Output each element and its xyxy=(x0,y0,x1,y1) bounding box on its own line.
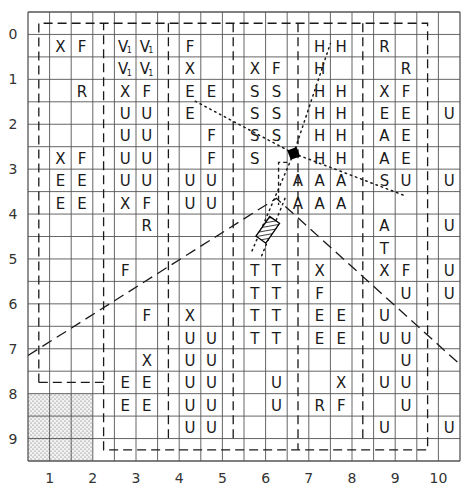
row-labels: 0123456789 xyxy=(9,26,18,446)
cell-letter: S xyxy=(272,105,282,123)
cell-letter: E xyxy=(401,105,410,123)
row-label: 1 xyxy=(9,71,18,87)
cell-letter: E xyxy=(120,397,129,415)
cell-letter: E xyxy=(380,105,389,123)
cell-letter: U xyxy=(379,330,390,348)
cell-letter: E xyxy=(142,397,151,415)
cell-letter: U xyxy=(271,374,282,392)
col-label: 5 xyxy=(218,470,227,486)
cell-letter: S xyxy=(272,127,282,145)
cell-letter: A xyxy=(314,172,325,190)
cell-letter: H xyxy=(314,83,325,101)
cell-letter: U xyxy=(401,285,412,303)
cell-letter: E xyxy=(315,307,324,325)
cell-letter: X xyxy=(379,262,389,280)
cell-letter: E xyxy=(142,374,151,392)
cell-letter-subscript: 1 xyxy=(127,69,132,78)
cell-letter: U xyxy=(379,374,390,392)
cell-letter: X xyxy=(55,150,65,168)
cell-letter: X xyxy=(185,60,195,78)
cell-letter: A xyxy=(336,195,347,213)
cell-letter: E xyxy=(315,330,324,348)
cell-letter-subscript: 1 xyxy=(148,46,153,55)
row-label: 3 xyxy=(9,161,18,177)
cell-letter: E xyxy=(56,195,65,213)
cell-letter: U xyxy=(120,150,131,168)
cell-letter: F xyxy=(78,38,87,56)
cell-letter: X xyxy=(120,83,130,101)
cell-letter: H xyxy=(314,38,325,56)
cell-letter: S xyxy=(250,150,260,168)
cell-letter: F xyxy=(142,307,151,325)
cell-letter: A xyxy=(379,217,390,235)
dotted-shaded-area xyxy=(28,394,93,461)
cell-letter: F xyxy=(207,150,216,168)
cell-letter: T xyxy=(271,285,282,303)
cell-letter: U xyxy=(444,105,455,123)
cell-letter: A xyxy=(379,127,390,145)
cell-letter: T xyxy=(271,330,282,348)
col-label: 4 xyxy=(175,470,184,486)
cell-letter: E xyxy=(336,330,345,348)
cell-letter: F xyxy=(142,195,151,213)
cell-letter: A xyxy=(379,150,390,168)
cell-letter: U xyxy=(185,397,196,415)
cell-letter: U xyxy=(120,172,131,190)
cell-letter: T xyxy=(249,330,260,348)
cell-letter: U xyxy=(185,374,196,392)
cell-letter: U xyxy=(444,419,455,437)
row-label: 7 xyxy=(9,341,18,357)
cell-letter-subscript: 1 xyxy=(148,69,153,78)
cell-letter: U xyxy=(141,172,152,190)
col-label: 3 xyxy=(132,470,141,486)
cell-letter: E xyxy=(77,172,86,190)
cell-letter: F xyxy=(315,285,324,303)
col-label: 7 xyxy=(304,470,313,486)
cell-letter: U xyxy=(141,127,152,145)
cell-letter: U xyxy=(401,330,412,348)
cell-letter: H xyxy=(314,127,325,145)
cell-letter: H xyxy=(314,150,325,168)
cell-letter: H xyxy=(336,83,347,101)
cell-letter: A xyxy=(314,195,325,213)
cell-letter: S xyxy=(272,83,282,101)
cell-letter: U xyxy=(401,352,412,370)
shaded-zone xyxy=(28,394,93,461)
cell-letter: F xyxy=(207,127,216,145)
cell-letter: S xyxy=(250,127,260,145)
cell-letter: U xyxy=(206,195,217,213)
cell-letter: U xyxy=(444,172,455,190)
cell-letter: T xyxy=(249,307,260,325)
cell-letter: X xyxy=(379,83,389,101)
cell-letter: S xyxy=(380,172,390,190)
cell-letter: U xyxy=(206,397,217,415)
cell-letter: U xyxy=(206,352,217,370)
cell-letter: E xyxy=(120,374,129,392)
cell-letter: S xyxy=(250,83,260,101)
cell-letter: U xyxy=(185,330,196,348)
cell-letter: U xyxy=(206,374,217,392)
cell-letter: X xyxy=(336,374,346,392)
cell-letter: U xyxy=(206,172,217,190)
cell-letter: A xyxy=(293,172,304,190)
cell-letter: T xyxy=(271,262,282,280)
cell-letter: F xyxy=(78,150,87,168)
cell-letter: U xyxy=(185,352,196,370)
cell-letter: H xyxy=(336,150,347,168)
cell-letter: H xyxy=(336,127,347,145)
row-label: 4 xyxy=(9,206,18,222)
cell-letter: X xyxy=(55,38,65,56)
cell-letter: R xyxy=(401,60,411,78)
cell-letter: X xyxy=(120,195,130,213)
row-label: 2 xyxy=(9,116,18,132)
col-label: 10 xyxy=(429,470,447,486)
cell-letter: E xyxy=(336,307,345,325)
cell-letter: A xyxy=(293,195,304,213)
cell-letter: F xyxy=(272,60,281,78)
cell-letter: E xyxy=(185,83,194,101)
hatched-rectangle-marker xyxy=(256,216,280,243)
cell-letter: A xyxy=(336,172,347,190)
cell-letter: U xyxy=(206,419,217,437)
cell-letter: F xyxy=(402,262,411,280)
col-label: 8 xyxy=(348,470,357,486)
